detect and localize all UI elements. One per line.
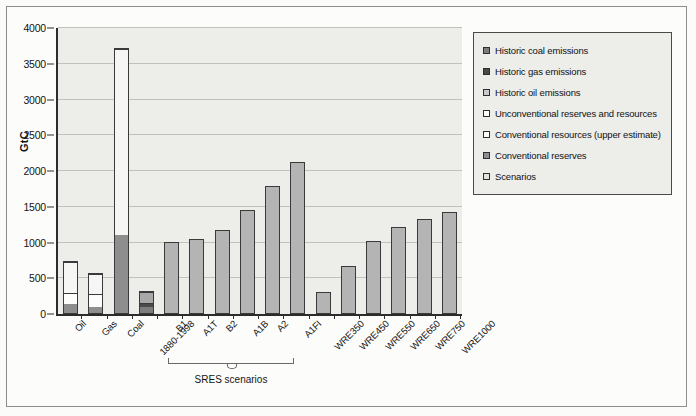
legend-item-4[interactable]: Conventional resources (upper estimate) (483, 124, 664, 145)
legend-label: Historic gas emissions (495, 66, 586, 77)
bar-slot-coal (109, 28, 134, 314)
y-tick-mark-1500 (47, 206, 54, 207)
bar-wre1000[interactable] (442, 212, 457, 314)
bar-1880-1998[interactable] (139, 291, 154, 314)
legend-swatch-icon (483, 131, 490, 138)
y-tick-label-1500: 1500 (23, 201, 46, 213)
chart-legend: Historic coal emissionsHistoric gas emis… (473, 32, 672, 195)
x-tick-mark (460, 315, 461, 319)
bar-segment-scenarios (241, 211, 254, 313)
x-tick-label-oil: Oil (72, 318, 88, 334)
bar-slot-1880-1998 (134, 28, 159, 314)
legend-label: Historic coal emissions (495, 45, 588, 56)
y-tick-label-0: 0 (40, 308, 46, 320)
bar-wre650[interactable] (391, 227, 406, 314)
bar-b2[interactable] (215, 230, 230, 314)
bar-segment-conventional-resources-upper-estimate- (64, 293, 77, 304)
bar-segment-unconventional-reserves-and-resources (64, 262, 77, 293)
bar-segment-scenarios (266, 187, 279, 313)
legend-swatch-icon (483, 110, 490, 117)
x-tick-mark (334, 315, 335, 319)
bar-segment-scenarios (317, 293, 330, 313)
legend-item-6[interactable]: Scenarios (483, 166, 664, 187)
bar-segment-scenarios (367, 242, 380, 313)
bar-coal[interactable] (114, 48, 129, 314)
bar-segment-conventional-reserves (64, 304, 77, 313)
bar-slot-wre1000 (437, 28, 462, 314)
x-tick-mark (157, 315, 158, 319)
bar-wre550[interactable] (366, 241, 381, 314)
bar-slot-a1t (184, 28, 209, 314)
legend-swatch-icon (483, 89, 490, 96)
bar-b1[interactable] (164, 242, 179, 314)
y-axis-ticks: 05001000150020002500300035004000 (0, 28, 54, 314)
y-tick-label-2500: 2500 (23, 129, 46, 141)
bar-wre350[interactable] (316, 292, 331, 314)
bar-slot-b2 (210, 28, 235, 314)
legend-item-5[interactable]: Conventional reserves (483, 145, 664, 166)
y-tick-mark-2000 (47, 171, 54, 172)
bar-slot-a2 (260, 28, 285, 314)
bar-a1fi[interactable] (290, 162, 305, 314)
legend-item-2[interactable]: Historic oil emissions (483, 82, 664, 103)
bar-segment-scenarios (443, 213, 456, 313)
legend-swatch-icon (483, 152, 490, 159)
legend-item-1[interactable]: Historic gas emissions (483, 61, 664, 82)
bar-segment-unconventional-reserves-and-resources (115, 49, 128, 235)
y-tick-label-1000: 1000 (23, 237, 46, 249)
x-tick-mark (359, 315, 360, 319)
bar-segment-scenarios (418, 220, 431, 313)
bar-slot-gas (83, 28, 108, 314)
legend-swatch-icon (483, 47, 490, 54)
bar-segment-conventional-reserves (115, 235, 128, 313)
x-tick-mark (107, 315, 108, 319)
x-tick-mark (233, 315, 234, 319)
bar-oil[interactable] (63, 261, 78, 314)
legend-item-3[interactable]: Unconventional reserves and resources (483, 103, 664, 124)
bar-group (58, 28, 462, 314)
bar-segment-conventional-reserves (89, 307, 102, 313)
plot-area (56, 28, 462, 316)
bar-a1b[interactable] (240, 210, 255, 314)
y-tick-mark-2500 (47, 135, 54, 136)
bracket-notch (227, 363, 237, 369)
bar-a1t[interactable] (189, 239, 204, 314)
x-tick-label-a1fi: A1FI (302, 318, 324, 340)
bar-segment-historic-oil-emissions (140, 292, 153, 303)
bar-segment-scenarios (342, 267, 355, 313)
bar-slot-a1b (235, 28, 260, 314)
x-tick-label-a1b: A1B (251, 318, 271, 338)
legend-swatch-icon (483, 68, 490, 75)
legend-item-0[interactable]: Historic coal emissions (483, 40, 664, 61)
y-tick-mark-3000 (47, 99, 54, 100)
y-tick-mark-0 (47, 314, 54, 315)
y-tick-label-3000: 3000 (23, 94, 46, 106)
y-tick-label-4000: 4000 (23, 22, 46, 34)
x-tick-label-a2: A2 (274, 318, 290, 334)
legend-label: Unconventional reserves and resources (495, 108, 657, 119)
bar-wre750[interactable] (417, 219, 432, 314)
legend-label: Historic oil emissions (495, 87, 580, 98)
x-tick-label-coal: Coal (125, 318, 146, 339)
y-tick-label-3500: 3500 (23, 58, 46, 70)
y-tick-label-2000: 2000 (23, 165, 46, 177)
bar-segment-scenarios (392, 228, 405, 313)
bar-slot-b1 (159, 28, 184, 314)
bar-slot-wre550 (361, 28, 386, 314)
bar-wre450[interactable] (341, 266, 356, 314)
bar-slot-wre650 (386, 28, 411, 314)
legend-label: Conventional reserves (495, 150, 586, 161)
bracket-cap-right (293, 358, 294, 364)
bar-gas[interactable] (88, 273, 103, 314)
x-tick-label-gas: Gas (99, 318, 119, 338)
bar-segment-scenarios (165, 243, 178, 313)
y-tick-mark-3500 (47, 63, 54, 64)
bar-segment-historic-coal-emissions (140, 307, 153, 313)
legend-swatch-icon (483, 173, 490, 180)
bar-a2[interactable] (265, 186, 280, 314)
x-tick-mark (132, 315, 133, 319)
y-tick-mark-1000 (47, 242, 54, 243)
x-tick-mark (258, 315, 259, 319)
x-tick-mark (384, 315, 385, 319)
y-tick-mark-500 (47, 278, 54, 279)
